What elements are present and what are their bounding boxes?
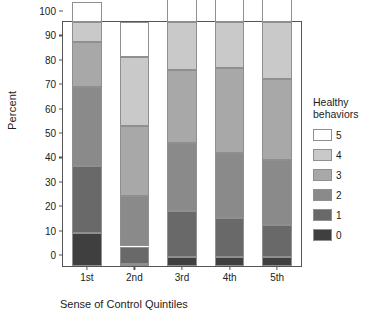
x-axis-tick-label-2nd: 2nd [126,272,143,283]
y-axis-tick: 80 [45,54,63,65]
y-axis-tick-mark [59,230,63,231]
y-axis-tick: 60 [45,103,63,114]
legend-label-0: 0 [336,230,342,241]
legend-label-4: 4 [336,150,342,161]
bar-segment-3rd-level-2[interactable] [167,143,197,211]
legend-swatch-0 [313,229,332,241]
bar-segment-5th-level-0[interactable] [262,257,292,266]
bar-segment-2nd-level-2[interactable] [120,196,150,246]
legend-title-line-2: behaviors [313,108,387,120]
bar-segment-4th-level-3[interactable] [215,68,245,152]
y-axis-tick-label: 80 [45,54,56,65]
bar-segment-3rd-level-1[interactable] [167,211,197,257]
bar-segment-4th-level-0[interactable] [215,257,245,266]
bar-segment-5th-level-2[interactable] [262,160,292,225]
bar-segment-4th-level-1[interactable] [215,218,245,257]
legend-label-3: 3 [336,170,342,181]
bar-2nd[interactable] [120,22,150,266]
x-axis-title: Sense of Control Quintiles [60,298,188,310]
bar-segment-5th-level-5[interactable] [262,0,292,22]
x-axis-tick-label-4th: 4th [223,272,237,283]
bar-segment-4th-level-2[interactable] [215,153,245,219]
legend-item-0[interactable]: 0 [313,229,387,241]
y-axis-tick-label: 60 [45,103,56,114]
bar-segment-2nd-level-3[interactable] [120,126,150,197]
x-axis-tick-mark [181,266,182,270]
legend: Healthy behaviors 543210 [313,96,387,249]
bar-segment-3rd-level-4[interactable] [167,22,197,70]
bar-segment-4th-level-4[interactable] [215,22,245,68]
bar-3rd[interactable] [167,22,197,266]
bar-segment-1st-level-1[interactable] [72,166,102,233]
legend-swatch-2 [313,189,332,201]
legend-items: 543210 [313,129,387,241]
legend-swatch-1 [313,209,332,221]
x-axis-tick-mark [277,266,278,270]
x-axis-tick-mark [134,266,135,270]
y-axis-tick-mark [59,35,63,36]
y-axis-tick-mark [59,59,63,60]
legend-item-4[interactable]: 4 [313,149,387,161]
legend-title-line-1: Healthy [313,96,387,108]
y-axis-tick-label: 0 [50,250,56,261]
legend-title: Healthy behaviors [313,96,387,120]
bar-segment-1st-level-3[interactable] [72,42,102,87]
y-axis-tick-label: 70 [45,79,56,90]
bar-segment-3rd-level-0[interactable] [167,257,197,266]
y-axis-title: Percent [6,91,18,130]
plot-inner: 01020304050607080901001st2nd3rd4th5th [63,22,301,266]
bar-segment-5th-level-3[interactable] [262,79,292,160]
y-axis-tick: 100 [39,6,63,17]
bar-segment-3rd-level-3[interactable] [167,70,197,143]
y-axis-tick: 20 [45,201,63,212]
y-axis-tick-label: 50 [45,128,56,139]
bar-1st[interactable] [72,22,102,266]
bar-segment-1st-level-0[interactable] [72,233,102,266]
y-axis-tick: 40 [45,152,63,163]
x-axis-tick-label-5th: 5th [270,272,284,283]
bar-segment-4th-level-5[interactable] [215,0,245,22]
stacked-bar-chart: Percent 01020304050607080901001st2nd3rd4… [0,0,390,323]
bar-5th[interactable] [262,22,292,266]
y-axis-tick-mark [59,181,63,182]
y-axis-tick-label: 100 [39,6,56,17]
legend-item-1[interactable]: 1 [313,209,387,221]
y-axis-tick-label: 30 [45,176,56,187]
bar-segment-2nd-level-4[interactable] [120,57,150,125]
bar-segment-1st-level-2[interactable] [72,87,102,166]
bar-segment-5th-level-4[interactable] [262,22,292,79]
bar-segment-5th-level-1[interactable] [262,225,292,258]
legend-label-5: 5 [336,130,342,141]
legend-label-2: 2 [336,190,342,201]
x-axis-tick-label-3rd: 3rd [175,272,189,283]
y-axis-tick-mark [59,254,63,255]
y-axis-tick-mark [59,108,63,109]
x-axis-tick-mark [86,266,87,270]
y-axis-tick: 10 [45,225,63,236]
bar-segment-3rd-level-5[interactable] [167,0,197,22]
bar-segment-1st-level-5[interactable] [72,2,102,22]
y-axis-tick: 90 [45,30,63,41]
y-axis-tick-mark [59,10,63,11]
plot-area: 01020304050607080901001st2nd3rd4th5th [62,21,302,267]
bar-segment-1st-level-4[interactable] [72,22,102,42]
y-axis-tick-label: 40 [45,152,56,163]
y-axis-tick-mark [59,84,63,85]
y-axis-tick-mark [59,132,63,133]
y-axis-tick: 70 [45,79,63,90]
y-axis-tick: 0 [50,250,63,261]
y-axis-tick-label: 10 [45,225,56,236]
y-axis-tick-mark [59,206,63,207]
y-axis-tick: 50 [45,128,63,139]
bar-segment-2nd-level-1[interactable] [120,247,150,265]
legend-item-3[interactable]: 3 [313,169,387,181]
y-axis-tick-label: 20 [45,201,56,212]
legend-item-5[interactable]: 5 [313,129,387,141]
legend-swatch-4 [313,149,332,161]
legend-swatch-5 [313,129,332,141]
bar-4th[interactable] [215,22,245,266]
y-axis-tick: 30 [45,176,63,187]
legend-item-2[interactable]: 2 [313,189,387,201]
y-axis-tick-mark [59,157,63,158]
bar-segment-2nd-level-5[interactable] [120,22,150,57]
